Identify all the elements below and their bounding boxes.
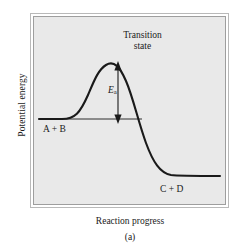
reactant-level-label: A + B [43, 124, 66, 135]
product-level-label: C + D [160, 184, 183, 195]
energy-profile-curve [39, 63, 220, 176]
plot-frame-outer: Transition state A + B C + D Ea [30, 13, 229, 208]
activation-energy-label: Ea [108, 85, 117, 96]
transition-state-label: Transition state [34, 30, 229, 51]
plot-frame-inner: Transition state A + B C + D Ea [33, 16, 226, 205]
y-axis-title: Potential energy [17, 45, 27, 165]
transition-state-label-line1: Transition [123, 30, 162, 40]
transition-state-label-line2: state [134, 41, 151, 51]
reaction-energy-diagram: Potential energy Transi [0, 0, 242, 251]
figure-caption: (a) [30, 232, 230, 242]
x-axis-title: Reaction progress [30, 216, 230, 226]
activation-energy-subscript: a [114, 88, 117, 95]
